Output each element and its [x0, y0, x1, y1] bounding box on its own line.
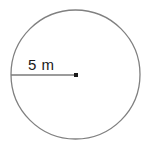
center-dot	[74, 73, 78, 77]
circle-diagram-figure: 5 m	[0, 0, 147, 149]
diagram-svg-layer	[0, 0, 147, 149]
radius-measurement-label: 5 m	[28, 56, 55, 74]
